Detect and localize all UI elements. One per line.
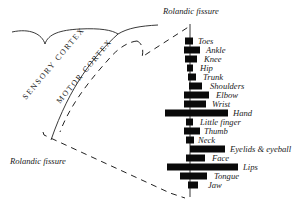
bar-eyelids-eyeball [190, 146, 225, 153]
body-part-bars: ToesAnkleKneeHipTrunkShouldersElbowWrist… [165, 36, 292, 190]
bar-wrist [184, 101, 206, 108]
rolandic-fissure-label-bottom: Rolandic fissure [9, 156, 66, 166]
bar-lips [167, 164, 238, 171]
rolandic-fissure-label-top: Rolandic fissure [162, 6, 219, 16]
motor-homunculus-diagram: SENSORY CORTEX MOTOR CORTEX Rolandic fis… [0, 0, 302, 207]
bar-thumb [184, 128, 200, 135]
bar-little-finger [186, 119, 193, 126]
bar-jaw [188, 182, 198, 189]
label-neck: Neck [197, 135, 215, 145]
bar-knee [185, 56, 197, 63]
bar-tongue [180, 173, 207, 180]
bar-elbow [184, 92, 209, 99]
label-wrist: Wrist [212, 99, 231, 109]
sensory-cortex-label: SENSORY CORTEX [21, 25, 87, 101]
bar-ankle [184, 47, 200, 54]
bar-neck [186, 137, 194, 144]
bar-toes [185, 38, 193, 45]
bar-hand [165, 110, 228, 117]
label-lips: Lips [242, 162, 258, 172]
bar-hip [187, 65, 193, 72]
projection-line-top [137, 26, 190, 57]
label-jaw: Jaw [208, 180, 222, 190]
bar-face [186, 155, 205, 162]
label-face: Face [211, 153, 229, 163]
label-eyelids-eyeball: Eyelids & eyeball [229, 144, 292, 154]
bar-shoulders [189, 83, 202, 90]
bar-trunk [188, 74, 196, 81]
cortex-surface-line [118, 25, 158, 34]
